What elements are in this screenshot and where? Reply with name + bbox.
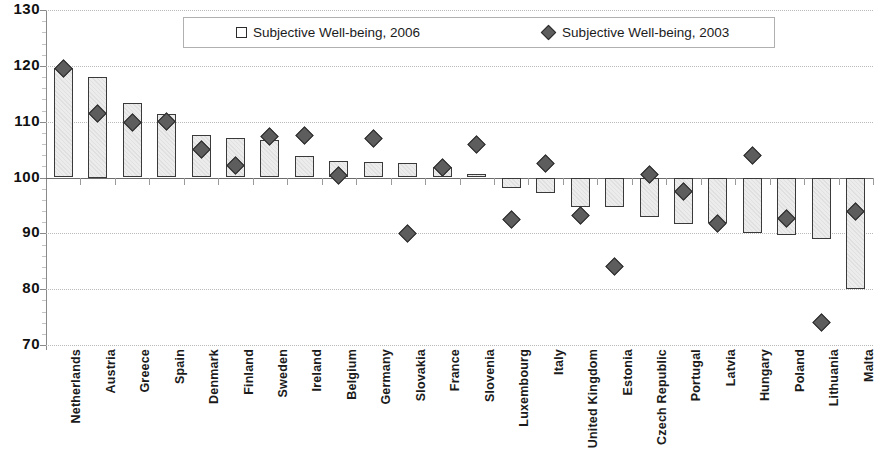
bar — [467, 174, 486, 177]
y-axis-minor-tick — [42, 323, 46, 324]
y-axis-tick-label: 80 — [0, 279, 40, 296]
gridline — [46, 345, 873, 346]
y-axis-tick — [40, 122, 46, 123]
plot-area — [46, 10, 873, 345]
y-axis-minor-tick — [42, 222, 46, 223]
x-axis-tick — [770, 178, 771, 185]
x-axis-tick — [460, 178, 461, 185]
y-axis-labels: 130120110100908070 — [0, 10, 40, 345]
data-point-marker — [399, 224, 417, 242]
bar — [295, 156, 314, 177]
y-axis-minor-tick — [42, 111, 46, 112]
y-axis-tick-label: 100 — [0, 168, 40, 185]
y-axis-tick — [40, 345, 46, 346]
y-axis-minor-tick — [42, 334, 46, 335]
bar — [812, 178, 831, 239]
y-axis-minor-tick — [42, 166, 46, 167]
x-axis-tick — [115, 178, 116, 185]
bar — [743, 178, 762, 233]
x-axis-category-label: Slovenia — [483, 349, 497, 402]
y-axis-minor-tick — [42, 32, 46, 33]
y-axis-minor-tick — [42, 21, 46, 22]
bar — [364, 162, 383, 177]
y-axis-tick-label: 110 — [0, 112, 40, 129]
bar — [54, 68, 73, 178]
x-axis-tick — [701, 178, 702, 185]
x-axis-category-label: Luxembourg — [517, 349, 531, 427]
bar — [571, 178, 590, 207]
data-point-marker — [605, 257, 623, 275]
x-axis-category-label: Ireland — [310, 349, 324, 391]
y-axis-tick — [40, 233, 46, 234]
y-axis-minor-tick — [42, 55, 46, 56]
x-axis-category-label: Germany — [379, 349, 393, 405]
x-axis-tick — [218, 178, 219, 185]
bar — [846, 178, 865, 290]
y-axis-tick — [40, 289, 46, 290]
square-marker-icon — [236, 27, 247, 38]
y-axis-minor-tick — [42, 312, 46, 313]
diamond-marker-icon — [541, 25, 557, 41]
y-axis-tick — [40, 66, 46, 67]
x-axis-category-label: Malta — [862, 349, 876, 382]
legend-entry-2006: Subjective Well-being, 2006 — [236, 25, 420, 40]
x-axis-category-label: Spain — [173, 349, 187, 384]
data-point-marker — [502, 211, 520, 229]
y-axis-minor-tick — [42, 211, 46, 212]
x-axis-tick — [563, 178, 564, 185]
x-axis-tick — [184, 178, 185, 185]
y-axis-minor-tick — [42, 256, 46, 257]
x-axis-category-label: Denmark — [207, 349, 221, 404]
data-point-marker — [743, 146, 761, 164]
y-axis-tick-label: 130 — [0, 0, 40, 17]
data-point-marker — [812, 313, 830, 331]
x-axis-tick — [494, 178, 495, 185]
x-axis-category-label: Estonia — [621, 349, 635, 396]
y-axis-tick-label: 120 — [0, 56, 40, 73]
x-axis-tick — [666, 178, 667, 185]
data-point-marker — [295, 126, 313, 144]
y-axis-minor-tick — [42, 144, 46, 145]
y-axis-minor-tick — [42, 278, 46, 279]
x-axis-tick — [391, 178, 392, 185]
x-axis-tick — [322, 178, 323, 185]
y-axis-minor-tick — [42, 155, 46, 156]
x-axis-category-label: Latvia — [724, 349, 738, 386]
x-axis-tick — [528, 178, 529, 185]
data-point-marker — [571, 206, 589, 224]
bars-and-markers — [46, 10, 873, 345]
x-axis-category-label: Netherlands — [69, 349, 83, 423]
y-axis-tick — [40, 178, 46, 179]
y-axis-tick-label: 90 — [0, 223, 40, 240]
bar — [605, 178, 624, 207]
x-axis-category-label: Austria — [104, 349, 118, 393]
x-axis-category-label: Poland — [793, 349, 807, 392]
data-point-marker — [364, 130, 382, 148]
data-point-marker — [536, 154, 554, 172]
legend-entry-2003: Subjective Well-being, 2003 — [542, 25, 729, 40]
x-axis-tick — [632, 178, 633, 185]
x-axis-category-label: France — [448, 349, 462, 391]
x-axis-tick — [80, 178, 81, 185]
y-axis-minor-tick — [42, 200, 46, 201]
x-axis-category-label: United Kingdom — [586, 349, 600, 448]
x-axis-tick — [149, 178, 150, 185]
x-axis-tick — [287, 178, 288, 185]
subjective-wellbeing-chart: 130120110100908070 Subjective Well-being… — [0, 0, 877, 457]
y-axis-tick-label: 70 — [0, 335, 40, 352]
x-axis-category-label: Greece — [138, 349, 152, 393]
y-axis-minor-tick — [42, 300, 46, 301]
y-axis-minor-tick — [42, 88, 46, 89]
data-point-marker — [468, 135, 486, 153]
x-axis-category-label: Lithuania — [827, 349, 841, 406]
x-axis-category-label: Finland — [242, 349, 256, 395]
y-axis-tick — [40, 10, 46, 11]
bar — [502, 178, 521, 188]
legend-label-2003: Subjective Well-being, 2003 — [562, 25, 729, 40]
x-axis-tick — [597, 178, 598, 185]
y-axis-minor-tick — [42, 77, 46, 78]
bar — [398, 163, 417, 178]
x-axis-labels: NetherlandsAustriaGreeceSpainDenmarkFinl… — [46, 349, 873, 457]
legend-label-2006: Subjective Well-being, 2006 — [253, 25, 420, 40]
x-axis-category-label: Italy — [552, 349, 566, 375]
